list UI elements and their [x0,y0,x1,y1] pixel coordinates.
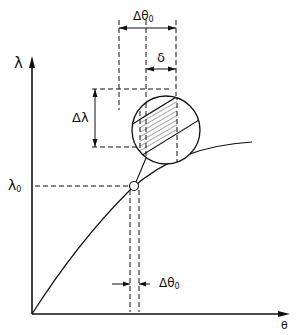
bottom-delta-theta-dimension [112,282,150,287]
lambda0-label: λ0 [8,178,21,194]
y-axis-label: λ [14,56,23,71]
delta-lambda-label: Δλ [72,111,89,124]
delta-dimension [146,67,176,72]
lambda-theta-diagram [0,0,299,335]
delta-lambda-dimension [93,89,98,147]
delta-label: δ [157,51,165,64]
operating-point [130,182,139,191]
magnified-detail [110,70,220,175]
x-axis-arrow-icon [278,311,290,317]
x-axis-label: θ [281,320,288,331]
top-delta-theta-dimension [119,26,176,31]
x-axis [32,311,290,317]
delta-theta0-top-label: Δθ0 [133,10,154,24]
delta-theta0-bottom-label: Δθ0 [159,277,180,291]
y-axis [29,56,35,314]
y-axis-arrow-icon [29,56,35,68]
